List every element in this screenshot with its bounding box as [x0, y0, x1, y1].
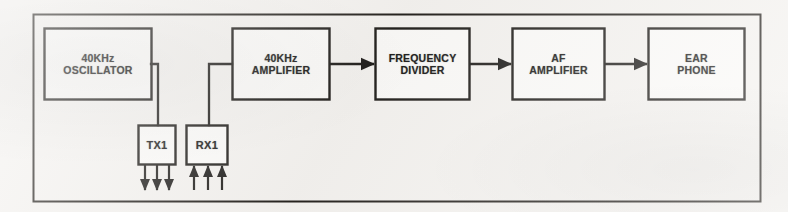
- amplifier-40khz-block[interactable]: [232, 28, 330, 100]
- tx1-block[interactable]: [138, 125, 176, 165]
- ear-phone-block[interactable]: [648, 28, 745, 100]
- rx1-block[interactable]: [186, 125, 228, 165]
- af-amplifier-block[interactable]: [512, 28, 605, 100]
- oscillator-block[interactable]: [44, 28, 152, 100]
- frequency-divider-block[interactable]: [375, 28, 470, 100]
- tx1-beam-arrows: [145, 165, 169, 190]
- connector-rx1-to-amplifier: [209, 64, 232, 125]
- block-diagram-image: 40KHz OSCILLATOR 40KHz AMPLIFIER FREQUEN…: [0, 0, 788, 212]
- rx1-beam-arrows: [194, 166, 222, 190]
